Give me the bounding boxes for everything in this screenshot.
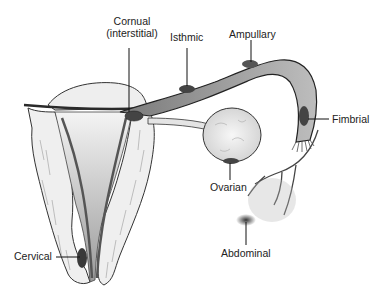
label-cornual-line2: (interstitial) (104, 27, 160, 39)
label-ovarian: Ovarian (210, 181, 247, 193)
label-cornual-line1: Cornual (104, 15, 160, 27)
label-ampullary: Ampullary (229, 28, 276, 40)
label-cervical: Cervical (14, 250, 52, 262)
label-abdominal: Abdominal (221, 247, 271, 259)
anatomy-illustration (0, 0, 386, 302)
label-fimbrial: Fimbrial (332, 113, 369, 125)
label-cornual: Cornual (interstitial) (104, 15, 160, 39)
uterine-fundus (24, 83, 150, 110)
ovary (203, 108, 261, 162)
label-isthmic: Isthmic (170, 31, 203, 43)
